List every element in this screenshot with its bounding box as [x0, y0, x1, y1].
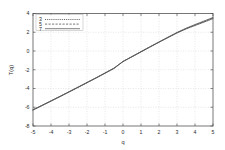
x-tick-label: 2	[158, 129, 161, 135]
y-tick-label: 0	[27, 48, 30, 54]
y-tick-label: 2	[27, 29, 30, 35]
x-tick-label: 1	[140, 129, 143, 135]
legend-label: 7	[39, 26, 42, 32]
x-tick-label: -4	[49, 129, 54, 135]
y-tick-label: -6	[25, 104, 30, 110]
y-tick-label: -4	[25, 85, 30, 91]
x-tick-label: -2	[85, 129, 90, 135]
x-axis-label: q	[121, 139, 124, 145]
y-axis-label: T(q)	[8, 65, 14, 75]
y-tick-label: -2	[25, 67, 30, 73]
chart-figure: -5-4-3-2-1012345 420-2-4-6-8 q T(q) 357	[0, 0, 225, 150]
legend: 357	[36, 15, 83, 32]
x-tick-label: -3	[67, 129, 72, 135]
y-tick-label: -8	[25, 123, 30, 129]
x-tick-label: -1	[103, 129, 108, 135]
x-tick-label: 5	[212, 129, 215, 135]
figure-background	[0, 0, 225, 150]
legend-box	[36, 15, 83, 31]
x-tick-label: -5	[31, 129, 36, 135]
x-tick-label: 3	[176, 129, 179, 135]
x-tick-label: 4	[194, 129, 197, 135]
x-tick-label: 0	[122, 129, 125, 135]
y-tick-label: 4	[27, 10, 30, 16]
